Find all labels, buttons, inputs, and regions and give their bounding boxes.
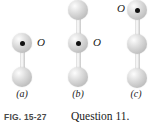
panel-letter-c: (c)	[121, 88, 151, 100]
figure-caption-text: Question 11.	[71, 110, 129, 122]
sphere-a-top-pivot	[12, 33, 32, 53]
figure-caption: FIG. 15-27 Question 11.	[0, 110, 162, 128]
pivot-label-a: O	[37, 37, 45, 48]
sphere-b-middle-pivot	[68, 33, 88, 53]
sphere-a-bottom	[12, 67, 32, 87]
sphere-b-top	[68, 0, 88, 20]
physics-figure: O (a) O (b) O (c) FIG. 15-27 Question 11…	[0, 0, 162, 131]
pivot-label-c: O	[117, 3, 125, 14]
sphere-c-top-pivot	[127, 0, 147, 20]
sphere-c-middle	[127, 34, 147, 54]
sphere-b-bottom	[68, 67, 88, 87]
pivot-label-b: O	[93, 37, 101, 48]
panel-letter-a: (a)	[7, 88, 37, 100]
figure-number: FIG. 15-27	[4, 112, 47, 122]
sphere-c-bottom	[127, 68, 147, 88]
panel-letter-b: (b)	[63, 88, 93, 100]
